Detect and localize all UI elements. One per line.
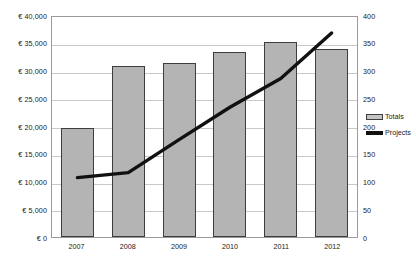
right-axis-tick: 250 xyxy=(363,95,403,104)
line-swatch-icon xyxy=(366,131,383,135)
right-axis-tick: 0 xyxy=(363,234,403,243)
left-axis-tick: € 25,000 xyxy=(0,95,47,104)
x-axis-tick: 2009 xyxy=(162,242,195,258)
chart-container: € 0€ 5,000€ 10,000€ 15,000€ 20,000€ 25,0… xyxy=(0,0,416,265)
line-series-projects xyxy=(52,17,357,237)
left-axis-tick: € 10,000 xyxy=(0,178,47,187)
legend-label-projects: Projects xyxy=(385,128,411,137)
legend-item-projects: Projects xyxy=(366,128,416,137)
chart-legend: Totals Projects xyxy=(366,112,416,144)
left-axis: € 0€ 5,000€ 10,000€ 15,000€ 20,000€ 25,0… xyxy=(0,0,47,265)
legend-label-totals: Totals xyxy=(385,112,404,121)
plot-area xyxy=(51,16,358,238)
x-axis-tick: 2010 xyxy=(214,242,247,258)
legend-item-totals: Totals xyxy=(366,112,416,121)
left-axis-tick: € 5,000 xyxy=(0,206,47,215)
x-axis-tick: 2008 xyxy=(111,242,144,258)
left-axis-tick: € 15,000 xyxy=(0,150,47,159)
left-axis-tick: € 40,000 xyxy=(0,12,47,21)
x-axis-labels: 200720082009201020112012 xyxy=(51,242,358,258)
right-axis-tick: 50 xyxy=(363,206,403,215)
left-axis-tick: € 35,000 xyxy=(0,39,47,48)
left-axis-tick: € 20,000 xyxy=(0,123,47,132)
right-axis-tick: 400 xyxy=(363,12,403,21)
x-axis-tick: 2011 xyxy=(265,242,298,258)
right-axis-tick: 150 xyxy=(363,150,403,159)
x-axis-tick: 2012 xyxy=(316,242,349,258)
x-axis-tick: 2007 xyxy=(60,242,93,258)
bar-swatch-icon xyxy=(366,114,383,120)
right-axis-tick: 100 xyxy=(363,178,403,187)
left-axis-tick: € 0 xyxy=(0,234,47,243)
right-axis-tick: 300 xyxy=(363,67,403,76)
right-axis-tick: 350 xyxy=(363,39,403,48)
left-axis-tick: € 30,000 xyxy=(0,67,47,76)
